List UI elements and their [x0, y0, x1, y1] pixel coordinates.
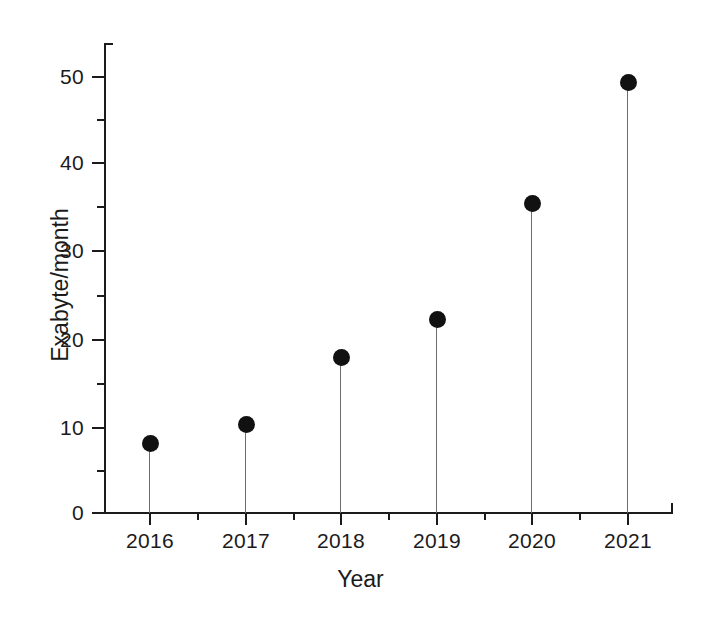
- y-tick-major-50: [92, 76, 105, 78]
- y-axis-title: Exabyte/month: [47, 135, 73, 435]
- x-tick-minor-4: [484, 512, 486, 520]
- y-tick-major-10: [92, 427, 105, 429]
- data-point-2018[interactable]: [333, 349, 350, 366]
- y-tick-minor-35: [97, 206, 105, 208]
- stem-2017: [245, 424, 246, 513]
- stem-2019: [436, 319, 437, 513]
- x-tick-label-2021: 2021: [588, 529, 668, 553]
- stem-2020: [531, 203, 532, 513]
- chart-figure: 0 10 20 30 40 50 2016 2017 2018 2019 202…: [0, 0, 721, 625]
- y-axis-top-cap: [104, 43, 113, 45]
- data-point-2016[interactable]: [142, 435, 159, 452]
- y-tick-major-0: [92, 512, 105, 514]
- data-point-2019[interactable]: [429, 311, 446, 328]
- y-tick-minor-45: [97, 119, 105, 121]
- data-point-2017[interactable]: [238, 416, 255, 433]
- x-tick-major-2016: [149, 512, 151, 525]
- y-tick-major-30: [92, 250, 105, 252]
- stem-2021: [627, 82, 628, 513]
- x-tick-major-2017: [245, 512, 247, 525]
- y-tick-minor-25: [97, 295, 105, 297]
- x-tick-label-2019: 2019: [397, 529, 477, 553]
- data-point-2020[interactable]: [524, 195, 541, 212]
- x-tick-label-2017: 2017: [206, 529, 286, 553]
- y-tick-minor-15: [97, 383, 105, 385]
- x-tick-major-2021: [627, 512, 629, 525]
- x-tick-minor-5: [579, 512, 581, 520]
- x-tick-label-2018: 2018: [301, 529, 381, 553]
- stem-2018: [340, 357, 341, 513]
- y-tick-label-50: 50: [26, 66, 84, 87]
- y-tick-major-40: [92, 162, 105, 164]
- y-axis-line: [104, 43, 106, 514]
- x-tick-major-2019: [436, 512, 438, 525]
- x-tick-minor-2: [293, 512, 295, 520]
- x-tick-label-2016: 2016: [110, 529, 190, 553]
- x-tick-minor-1: [197, 512, 199, 520]
- x-axis-title: Year: [0, 566, 721, 592]
- stem-2016: [149, 443, 150, 513]
- y-tick-major-20: [92, 339, 105, 341]
- x-tick-label-2020: 2020: [492, 529, 572, 553]
- x-tick-major-2018: [340, 512, 342, 525]
- x-tick-major-2020: [531, 512, 533, 525]
- y-tick-label-0: 0: [26, 502, 84, 523]
- y-tick-minor-5: [97, 470, 105, 472]
- data-point-2021[interactable]: [620, 74, 637, 91]
- x-tick-minor-3: [388, 512, 390, 520]
- x-axis-right-cap: [671, 503, 673, 514]
